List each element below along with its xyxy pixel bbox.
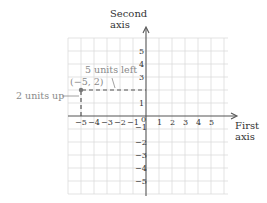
- y-axis-label-line1: Second: [110, 8, 148, 19]
- x-tick: 5: [209, 118, 214, 127]
- y-tick: 5: [139, 47, 144, 56]
- y-tick: 3: [139, 73, 144, 82]
- point-marker: [79, 88, 83, 92]
- y-tick: −5: [135, 177, 147, 186]
- coordinate-plane: Second axis First axis −5 −4 −3 −2 −1 1 …: [0, 0, 267, 203]
- x-tick: 4: [196, 118, 201, 127]
- x-tick: 2: [170, 118, 175, 127]
- x-tick: 3: [183, 118, 188, 127]
- x-tick: −2: [114, 118, 126, 127]
- x-tick: −4: [88, 118, 100, 127]
- y-tick: 1: [139, 99, 144, 108]
- y-axis-label-line2: axis: [110, 19, 130, 30]
- axes: [68, 27, 237, 196]
- y-tick: −3: [135, 151, 147, 160]
- annotation-5-units-left: 5 units left: [85, 64, 137, 75]
- annotation-2-units-up: 2 units up: [16, 90, 64, 101]
- x-axis-label-line1: First: [235, 120, 259, 131]
- y-tick: −1: [135, 123, 147, 132]
- annotation-5-units-left-leader: [112, 78, 115, 88]
- x-tick: −5: [75, 118, 87, 127]
- point-label: (−5, 2): [70, 76, 104, 87]
- x-axis-label-line2: axis: [235, 131, 255, 142]
- x-tick: 1: [157, 118, 162, 127]
- y-tick: −2: [135, 138, 147, 147]
- y-tick: −4: [135, 164, 147, 173]
- y-tick: 4: [139, 60, 144, 69]
- x-tick: −3: [101, 118, 113, 127]
